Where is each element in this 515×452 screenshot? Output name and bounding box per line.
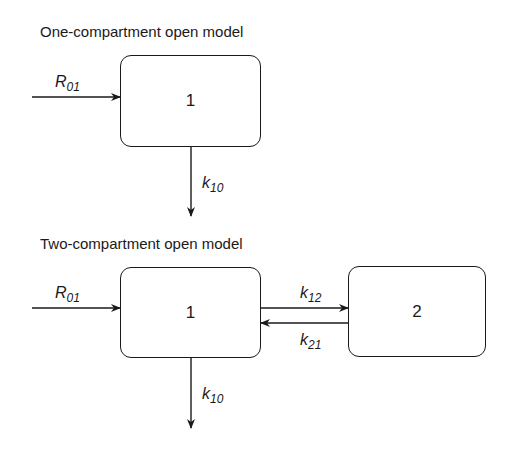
elimination-rate-label-two: k10 [202, 385, 223, 406]
subscript: 10 [210, 392, 223, 406]
input-rate-label-one: R01 [55, 73, 80, 94]
input-rate-label-two: R01 [55, 284, 80, 305]
symbol: R [55, 284, 67, 301]
symbol: k [300, 284, 308, 301]
elimination-rate-label-one: k10 [202, 174, 223, 195]
symbol: R [55, 73, 67, 90]
two-compartment-title: Two-compartment open model [40, 235, 243, 252]
one-compartment-title: One-compartment open model [40, 23, 243, 40]
subscript: 10 [210, 181, 223, 195]
transfer-rate-label-12: k12 [300, 284, 321, 305]
compartment-2-two: 2 [348, 266, 486, 357]
subscript: 12 [308, 291, 321, 305]
transfer-rate-label-21: k21 [300, 331, 321, 352]
symbol: k [202, 174, 210, 191]
compartment-1-two: 1 [120, 267, 261, 358]
symbol: k [202, 385, 210, 402]
subscript: 01 [67, 80, 80, 94]
compartment-label: 2 [412, 302, 421, 322]
compartment-label: 1 [186, 303, 195, 323]
subscript: 21 [308, 338, 321, 352]
symbol: k [300, 331, 308, 348]
compartment-label: 1 [186, 91, 195, 111]
compartment-1-one: 1 [120, 55, 261, 147]
subscript: 01 [67, 291, 80, 305]
